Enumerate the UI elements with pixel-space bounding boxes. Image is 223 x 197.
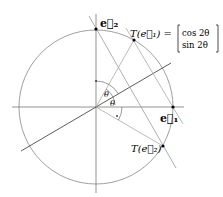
label-t-e2: T(e⃗₂) xyxy=(131,143,161,154)
point-t-e2 xyxy=(161,144,164,147)
matrix-left-bracket xyxy=(178,25,180,52)
matrix-right-bracket xyxy=(216,25,218,52)
label-e1: e⃗₁ xyxy=(160,112,179,125)
label-e2: e⃗₂ xyxy=(100,17,119,30)
reflection-diagram: e⃗₂ e⃗₁ T(e⃗₁) = cos 2θ sin 2θ T(e⃗₂) θ … xyxy=(0,0,223,197)
angle-arc-lower xyxy=(119,107,123,120)
label-theta-lower: θ xyxy=(110,99,115,108)
arc-tick xyxy=(95,80,97,82)
matrix-top: cos 2θ xyxy=(182,28,209,38)
point-e1 xyxy=(171,105,174,108)
origin-to-t-e1-line xyxy=(96,40,134,107)
label-t-e1: T(e⃗₁) = xyxy=(130,28,172,39)
point-e2 xyxy=(94,27,97,30)
origin-to-t-e2-line xyxy=(96,107,163,146)
e1-to-t-e1-line xyxy=(126,28,183,124)
arc-tick xyxy=(116,115,118,117)
label-theta-upper: θ xyxy=(104,90,109,99)
matrix-bottom: sin 2θ xyxy=(182,40,208,50)
